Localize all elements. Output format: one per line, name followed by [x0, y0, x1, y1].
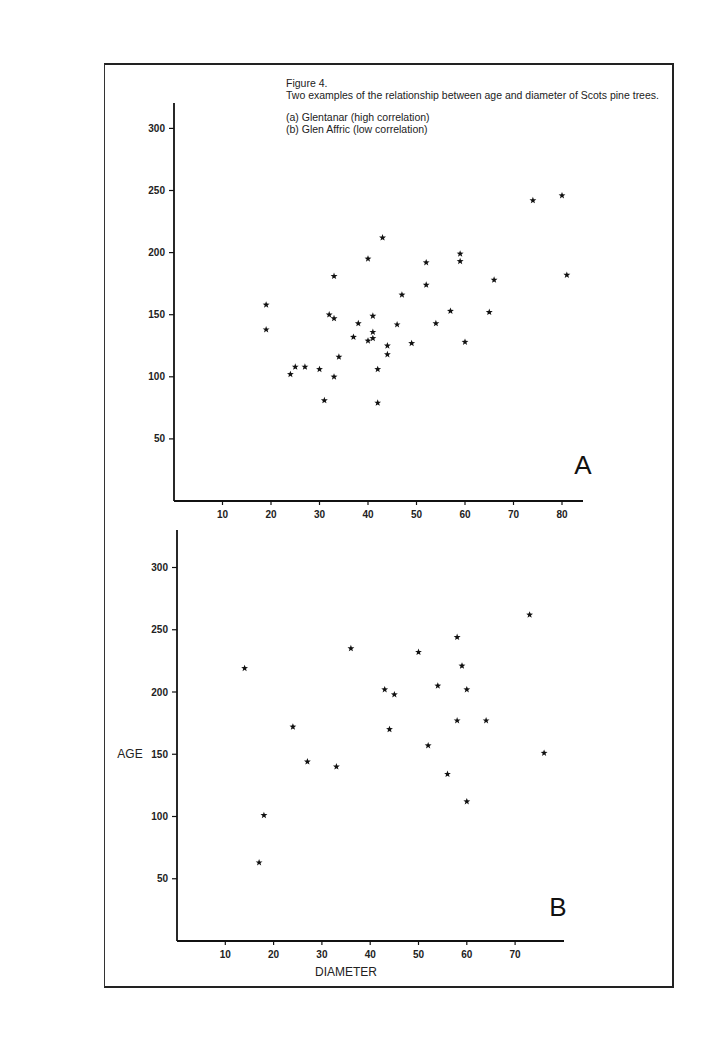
y-tick-label: 100 [151, 811, 168, 822]
data-point-star [434, 682, 441, 689]
data-point-star [348, 645, 355, 652]
panel-label-b: B [549, 892, 566, 922]
data-point-star [483, 717, 490, 724]
x-tick-label: 50 [413, 949, 425, 960]
y-tick-label: 50 [157, 873, 169, 884]
data-point-star [394, 321, 401, 328]
x-tick-label: 10 [220, 949, 232, 960]
data-point-star [444, 771, 451, 778]
data-point-star [261, 812, 268, 819]
scatter-plot-a: 501001502002503001020304050607080A [148, 103, 592, 520]
data-point-star [321, 397, 328, 404]
data-point-star [491, 276, 498, 283]
y-tick-label: 150 [151, 749, 168, 760]
data-point-star [241, 665, 248, 672]
data-point-star [384, 351, 391, 358]
x-tick-label: 10 [217, 509, 229, 520]
y-axis-title: AGE [117, 747, 142, 761]
data-point-star [326, 311, 333, 318]
data-point-star [263, 301, 270, 308]
data-point-star [526, 611, 533, 618]
x-axis-title: DIAMETER [315, 965, 377, 979]
data-point-star [486, 309, 493, 316]
data-point-star [304, 758, 311, 765]
data-point-star [331, 315, 338, 322]
y-tick-label: 300 [151, 562, 168, 573]
x-tick-label: 30 [314, 509, 326, 520]
x-tick-label: 60 [459, 509, 471, 520]
data-point-star [374, 399, 381, 406]
y-tick-label: 250 [151, 624, 168, 635]
data-point-star [563, 271, 570, 278]
y-tick-label: 200 [151, 687, 168, 698]
data-point-star [316, 366, 323, 373]
data-point-star [263, 326, 270, 333]
y-tick-label: 100 [148, 371, 165, 382]
data-point-star [408, 340, 415, 347]
data-point-star [463, 686, 470, 693]
x-tick-label: 40 [362, 509, 374, 520]
data-point-star [381, 686, 388, 693]
data-point-star [290, 723, 297, 730]
data-point-star [331, 273, 338, 280]
data-point-star [454, 634, 461, 641]
data-point-star [559, 192, 566, 199]
x-tick-label: 60 [461, 949, 473, 960]
data-point-star [391, 691, 398, 698]
data-point-star [365, 255, 372, 262]
data-point-star [355, 320, 362, 327]
data-point-star [454, 717, 461, 724]
panel-label-a: A [574, 450, 592, 480]
data-point-star [365, 337, 372, 344]
data-point-star [425, 742, 432, 749]
data-point-star [287, 371, 294, 378]
data-point-star [433, 320, 440, 327]
x-tick-label: 40 [365, 949, 377, 960]
data-point-star [386, 726, 393, 733]
data-point-star [336, 353, 343, 360]
y-tick-label: 250 [148, 185, 165, 196]
data-point-star [457, 250, 464, 257]
data-point-star [333, 763, 340, 770]
data-point-star [350, 334, 357, 341]
data-point-star [331, 373, 338, 380]
data-point-star [292, 363, 299, 370]
y-tick-label: 150 [148, 309, 165, 320]
data-point-star [379, 234, 386, 241]
data-point-star [384, 342, 391, 349]
data-point-star [459, 662, 466, 669]
data-point-star [256, 859, 263, 866]
data-point-star [302, 363, 309, 370]
data-point-star [541, 749, 548, 756]
data-point-star [369, 329, 376, 336]
data-point-star [447, 307, 454, 314]
x-tick-label: 30 [316, 949, 328, 960]
x-tick-label: 70 [508, 509, 520, 520]
x-tick-label: 50 [411, 509, 423, 520]
data-point-star [369, 312, 376, 319]
data-point-star [423, 281, 430, 288]
y-tick-label: 200 [148, 247, 165, 258]
x-tick-label: 20 [265, 509, 277, 520]
x-tick-label: 70 [510, 949, 522, 960]
data-point-star [399, 291, 406, 298]
scatter-charts: 501001502002503001020304050607080A501001… [0, 0, 710, 1041]
data-point-star [462, 338, 469, 345]
data-point-star [463, 798, 470, 805]
x-tick-label: 80 [556, 509, 568, 520]
data-point-star [374, 366, 381, 373]
data-point-star [530, 197, 537, 204]
scatter-plot-b: 5010015020025030010203040506070B [151, 530, 566, 960]
data-point-star [415, 649, 422, 656]
data-point-star [457, 258, 464, 265]
y-tick-label: 50 [154, 433, 166, 444]
data-point-star [423, 259, 430, 266]
x-tick-label: 20 [268, 949, 280, 960]
y-tick-label: 300 [148, 123, 165, 134]
